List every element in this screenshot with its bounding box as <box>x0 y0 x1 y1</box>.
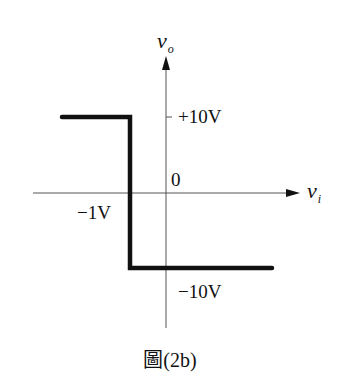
origin-label: 0 <box>171 170 181 189</box>
y-axis-arrow-icon <box>162 56 170 70</box>
pos-saturation-label: +10V <box>178 107 221 126</box>
figure-caption: 圖(2b) <box>0 344 340 373</box>
threshold-label: −1V <box>77 203 111 222</box>
x-axis-arrow-icon <box>286 189 300 197</box>
neg-saturation-label: −10V <box>178 282 221 301</box>
y-axis-label: vo <box>157 30 173 52</box>
transfer-characteristic-plot <box>0 0 340 374</box>
x-axis-label: vi <box>307 180 320 202</box>
